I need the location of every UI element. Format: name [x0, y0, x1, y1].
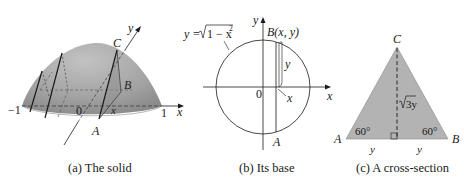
label-point-B: B	[124, 78, 132, 92]
label-y-distance: y	[284, 57, 291, 71]
label-x-distance: x	[286, 91, 293, 105]
label-y-axis: y	[252, 13, 259, 27]
svg-text:2: 2	[229, 24, 233, 33]
solid-volume-figure: −1 0 1 x y C B A x (a) The solid y = 1 −…	[0, 0, 464, 183]
label-point-A: A	[333, 132, 342, 146]
y-axis-arrow-icon	[135, 26, 141, 33]
y-axis-arrow-icon	[261, 17, 266, 23]
y-distance-brace	[279, 42, 282, 87]
label-base-left: y	[369, 143, 375, 155]
panel-c-cross-section: C A B 60° 60° 3y y y (c) A cross-section	[333, 32, 460, 175]
dome-surface	[22, 43, 162, 114]
label-point-B: B(x, y)	[267, 25, 299, 39]
label-point-B: B	[452, 132, 460, 146]
panel-b-base: y = 1 − x 2 y B(x, y) 0 A y x x (b) Its …	[183, 13, 333, 175]
svg-text:y =: y =	[183, 27, 200, 41]
label-zero: 0	[76, 104, 82, 118]
label-x-axis: x	[326, 89, 333, 103]
x-leader	[278, 89, 286, 96]
equation-leader	[224, 41, 229, 50]
label-point-C: C	[113, 36, 122, 50]
caption-a: (a) The solid	[68, 161, 132, 175]
label-zero: 0	[256, 87, 262, 101]
svg-text:3y: 3y	[406, 98, 418, 110]
label-base-right: y	[416, 143, 422, 155]
label-x-position: x	[110, 104, 116, 116]
label-one: 1	[161, 106, 167, 120]
label-neg-one: −1	[8, 103, 21, 117]
caption-c: (c) A cross-section	[356, 161, 450, 175]
label-y-axis: y	[127, 21, 134, 35]
panel-a-solid: −1 0 1 x y C B A x (a) The solid	[8, 21, 184, 175]
label-point-A: A	[272, 135, 281, 149]
equation-label: y = 1 − x 2	[183, 24, 233, 41]
caption-b: (b) Its base	[239, 161, 295, 175]
label-point-C: C	[393, 32, 402, 46]
label-angle-left: 60°	[355, 125, 370, 137]
label-angle-right: 60°	[422, 125, 437, 137]
label-x-axis: x	[176, 105, 183, 119]
label-point-A: A	[91, 124, 100, 138]
y-axis-lower	[64, 122, 78, 145]
